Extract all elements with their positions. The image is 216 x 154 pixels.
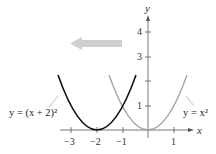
equation-label-shifted: y = (x + 2)² <box>9 107 57 118</box>
shift-left-arrow-icon <box>70 37 122 50</box>
x-axis <box>60 127 194 133</box>
leader-line-base <box>186 96 194 106</box>
x-axis-label: x <box>197 124 202 136</box>
y-axis-label: y <box>145 2 150 14</box>
series-shifted-parabola <box>58 75 136 130</box>
x-tick-label: −3 <box>64 136 75 147</box>
chart-canvas <box>0 0 216 154</box>
y-tick-label: 3 <box>137 51 142 62</box>
y-axis <box>145 15 151 138</box>
chart-figure: y x −3 −2 −1 1 1 3 4 y = (x + 2)² y = x² <box>0 0 216 154</box>
y-tick-label: 1 <box>137 100 142 111</box>
x-tick-label: −1 <box>116 136 127 147</box>
equation-label-base: y = x² <box>183 107 208 118</box>
y-tick-label: 4 <box>137 26 142 37</box>
x-tick-label: 1 <box>171 136 176 147</box>
x-tick-label: −2 <box>90 136 101 147</box>
